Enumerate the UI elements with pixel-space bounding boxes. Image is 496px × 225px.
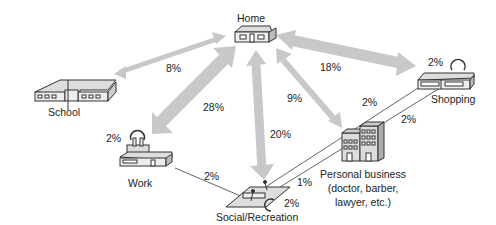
personal-label-line2: (doctor, barber,	[318, 182, 408, 194]
flow-home-school: 8%	[166, 62, 181, 74]
shopping-self-loop-icon	[451, 59, 465, 70]
work-self-trip: 2%	[106, 132, 121, 144]
work-label: Work	[128, 177, 152, 189]
social-self-trip: 2%	[284, 197, 299, 209]
personal-label-line1: Personal business	[318, 168, 408, 180]
school-label: School	[48, 106, 80, 118]
arrow-home-social	[246, 50, 274, 180]
flow-home-personal: 9%	[287, 92, 302, 104]
arrow-home-shopping	[276, 30, 416, 76]
home-label: Home	[237, 12, 265, 24]
shopping-icon	[418, 73, 474, 89]
flow-home-shopping: 18%	[320, 61, 341, 73]
flow-home-work: 28%	[203, 101, 224, 113]
flow-work-social: 2%	[204, 170, 219, 182]
flow-home-social: 20%	[270, 128, 291, 140]
personal-label-line3: lawyer, etc.)	[318, 196, 408, 208]
social-label: Social/Recreation	[216, 211, 298, 223]
arrow-home-personal	[276, 48, 342, 128]
shopping-label: Shopping	[431, 93, 475, 105]
personal-business-label: Personal business (doctor, barber, lawye…	[318, 168, 408, 208]
flow-social-personal: 1%	[297, 176, 312, 188]
flow-personal-shopping: 2%	[401, 113, 416, 125]
home-icon	[235, 26, 276, 42]
shopping-self-trip: 2%	[428, 56, 443, 68]
personal-business-icon	[342, 122, 384, 161]
work-icon	[120, 138, 172, 166]
flow-social-shopping: 2%	[362, 96, 377, 108]
